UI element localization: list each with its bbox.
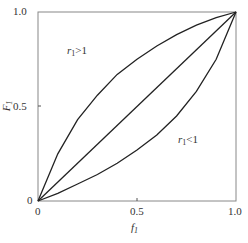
y-tick-label-zero: 0: [27, 195, 33, 206]
x-tick-label-zero: 0: [35, 206, 41, 217]
curve-r1-equal-1: [38, 12, 236, 201]
x-axis-label: f1: [131, 222, 138, 236]
annotation-r1-greater-1: r1>1: [67, 45, 87, 59]
x-tick-label-mid: 0.5: [130, 206, 144, 217]
x-tick-label-right: 1.0: [228, 206, 242, 217]
annotation-r1-less-1: r1<1: [178, 134, 198, 148]
y-tick-label-top: 1.0: [13, 6, 27, 17]
y-axis-label: F1: [1, 101, 15, 112]
